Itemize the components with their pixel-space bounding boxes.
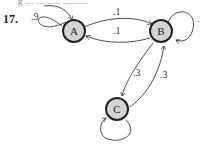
edge-label-A-A: .9 (31, 11, 39, 22)
node-A: A (63, 20, 85, 42)
edge-A-A (38, 17, 66, 27)
edge-B-A (86, 36, 150, 42)
svg-text:B: B (157, 25, 164, 37)
edge-C-C (101, 118, 131, 140)
svg-text:A: A (70, 25, 78, 37)
edge-label-A-B: .1 (113, 6, 121, 17)
edge-label-C-B: .3 (160, 69, 168, 80)
markov-diagram: .9 .1 .1 . .3 .3 A B C (0, 0, 202, 144)
svg-text:C: C (113, 103, 120, 115)
node-B: B (150, 20, 172, 42)
edge-label-B-A: .1 (113, 25, 121, 36)
edge-label-B-C: .3 (133, 67, 141, 78)
edge-label-B-B: . (197, 13, 200, 24)
node-C: C (106, 98, 128, 120)
